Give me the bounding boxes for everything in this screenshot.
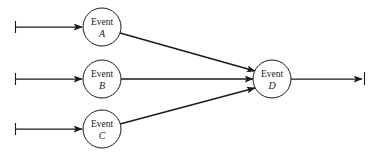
node-event-d-label: Event: [261, 69, 284, 79]
node-event-d[interactable]: Event D: [253, 60, 291, 98]
node-event-a[interactable]: Event A: [83, 8, 121, 46]
node-event-b[interactable]: Event B: [83, 60, 121, 98]
node-event-c-id: C: [99, 130, 106, 141]
diagram-canvas: Event A Event B Event C Event D: [0, 0, 376, 158]
node-event-d-id: D: [267, 80, 276, 91]
node-event-c[interactable]: Event C: [83, 110, 121, 148]
node-event-b-circle: [83, 60, 121, 98]
edge-d-to-output-group: [291, 72, 365, 85]
node-event-b-label: Event: [91, 69, 114, 79]
node-event-a-circle: [83, 8, 121, 46]
edge-input-to-c-group: [16, 123, 83, 135]
edge-c-to-d: [120, 88, 255, 124]
edge-a-to-d: [120, 33, 255, 71]
node-event-d-circle: [253, 60, 291, 98]
node-event-c-circle: [83, 110, 121, 148]
node-event-a-label: Event: [91, 17, 114, 27]
node-event-a-id: A: [98, 28, 106, 39]
edge-input-to-b-group: [16, 73, 83, 85]
event-network-diagram: Event A Event B Event C Event D: [0, 0, 376, 158]
edge-input-to-a-group: [16, 21, 83, 33]
node-event-b-id: B: [99, 80, 105, 91]
node-event-c-label: Event: [91, 119, 114, 129]
